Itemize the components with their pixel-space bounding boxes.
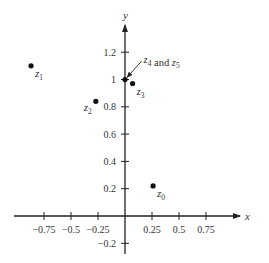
y-tick-label: 0.4 xyxy=(104,156,117,167)
point-label-z3: z3 xyxy=(136,85,145,100)
x-tick-label: −0.25 xyxy=(86,224,109,235)
data-points: z0z1z2z3 xyxy=(28,63,165,202)
y-tick-label: 1 xyxy=(111,74,116,85)
y-tick-label: 0.6 xyxy=(104,129,117,140)
point-z4 xyxy=(122,77,127,82)
x-tick-label: 0.5 xyxy=(173,224,186,235)
x-tick-label: −0.75 xyxy=(32,224,55,235)
y-tick-label: 0.8 xyxy=(104,101,117,112)
point-label-z2: z2 xyxy=(83,101,92,116)
x-tick-label: −0.5 xyxy=(62,224,80,235)
annotation-label: z4 and z5 xyxy=(143,54,180,70)
point-z2 xyxy=(93,99,98,104)
point-z0 xyxy=(150,183,155,188)
point-label-z1: z1 xyxy=(34,67,43,82)
x-tick-label: 0.25 xyxy=(143,224,161,235)
y-axis-label: y xyxy=(122,9,128,21)
annotation-arrow xyxy=(127,61,142,77)
x-tick-label: 0.75 xyxy=(197,224,215,235)
y-tick-label: −0.2 xyxy=(98,238,116,249)
point-z1 xyxy=(28,63,33,68)
y-tick-label: 1.2 xyxy=(104,47,117,58)
point-z3 xyxy=(130,81,135,86)
x-axis-label: x xyxy=(244,210,250,222)
annotations: z4 and z5 xyxy=(127,54,180,77)
point-label-z0: z0 xyxy=(156,187,165,202)
ticks: −0.75−0.5−0.250.250.50.75−0.20.20.40.60.… xyxy=(32,47,214,249)
y-tick-label: 0.2 xyxy=(104,183,117,194)
scatter-chart: xy −0.75−0.5−0.250.250.50.75−0.20.20.40.… xyxy=(0,0,269,263)
axes: xy xyxy=(14,9,250,254)
